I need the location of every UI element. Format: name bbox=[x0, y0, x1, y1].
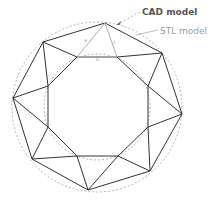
cad-arrow-icon bbox=[116, 21, 121, 25]
cad-outer-circle bbox=[12, 22, 182, 192]
stl-leader-line bbox=[136, 30, 158, 35]
stl-inner-polygon bbox=[48, 57, 148, 156]
cad-inner-circle bbox=[44, 54, 150, 160]
stl-model-label: STL model bbox=[160, 26, 207, 36]
stl-outer-polygon bbox=[13, 23, 182, 190]
highlight-triangle bbox=[77, 23, 117, 57]
side-c-label: c bbox=[113, 39, 116, 45]
cad-model-label: CAD model bbox=[142, 7, 197, 17]
cad-leader-line bbox=[118, 12, 140, 24]
mesh-triangulation bbox=[13, 42, 182, 190]
side-a-label: a bbox=[84, 37, 87, 43]
side-b-label: b bbox=[96, 56, 99, 62]
